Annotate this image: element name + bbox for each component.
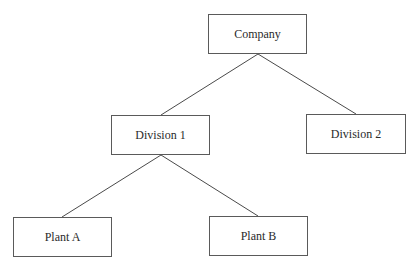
- org-chart: Company Division 1 Division 2 Plant A Pl…: [0, 0, 420, 268]
- node-label: Plant B: [241, 229, 277, 244]
- node-label: Plant A: [45, 230, 81, 245]
- edge-division1-plantA: [62, 155, 161, 217]
- edge-division1-plantB: [161, 155, 258, 216]
- node-label: Division 2: [331, 127, 381, 142]
- edge-company-division2: [258, 54, 356, 114]
- node-plant-a: Plant A: [13, 217, 112, 257]
- node-company: Company: [208, 14, 307, 54]
- node-division-2: Division 2: [306, 114, 406, 154]
- edge-company-division1: [161, 54, 258, 115]
- node-plant-b: Plant B: [209, 216, 308, 256]
- node-label: Division 1: [135, 128, 185, 143]
- node-label: Company: [234, 27, 281, 42]
- node-division-1: Division 1: [111, 115, 210, 155]
